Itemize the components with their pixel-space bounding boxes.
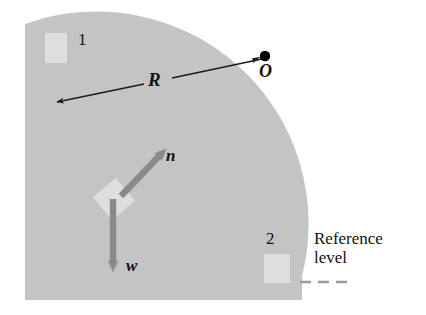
label-normal-force: n <box>166 146 175 165</box>
label-reference-level: Referencelevel <box>314 229 383 267</box>
label-center-of-curvature: O <box>259 61 272 81</box>
center-of-curvature-dot <box>260 51 270 61</box>
reference-level-line-1: Reference <box>314 229 383 248</box>
label-weight: w <box>126 256 137 275</box>
figure-canvas: 1 2 R O n w Referencelevel <box>0 0 426 315</box>
block-position-1 <box>45 33 67 63</box>
block-position-2 <box>264 254 290 283</box>
label-position-1: 1 <box>78 30 87 49</box>
label-radius: R <box>148 69 161 90</box>
diagram-svg <box>0 0 426 315</box>
label-position-2: 2 <box>266 229 275 248</box>
reference-level-line-2: level <box>314 248 347 267</box>
